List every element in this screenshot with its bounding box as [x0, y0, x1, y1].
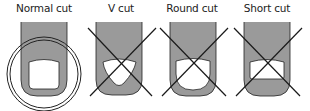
finger-short [244, 22, 290, 96]
nail-normal [29, 60, 59, 90]
panel-v-cut [88, 22, 156, 96]
panel-round-cut [160, 22, 228, 96]
panel-normal-cut [7, 22, 81, 111]
nail-cut-diagram [0, 0, 310, 111]
panel-short-cut [234, 22, 302, 96]
